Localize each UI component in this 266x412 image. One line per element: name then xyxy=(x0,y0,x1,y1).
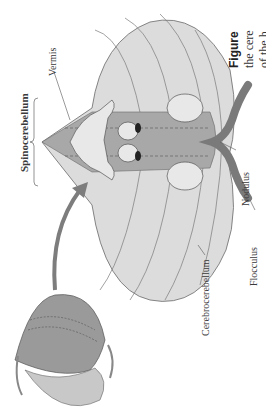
caption-figure-label: Figure xyxy=(227,31,241,68)
label-flocculus: Flocculus xyxy=(248,247,259,286)
caption-line-2: of the h xyxy=(257,31,266,68)
vermis-leader xyxy=(54,72,70,120)
label-nodulus: Nodulus xyxy=(240,172,251,206)
textbook-figure-page: Spinocerebellum Vermis Nodulus Flocculus… xyxy=(0,0,266,412)
transition-arrow xyxy=(54,190,80,290)
label-spinocerebellum: Spinocerebellum xyxy=(18,93,30,172)
brainstem-cerebellum-illustration xyxy=(15,295,113,406)
figure-caption: Figure the cere of the h xyxy=(226,30,266,68)
label-vermis: Vermis xyxy=(47,48,58,76)
spinocerebellum-bracket xyxy=(30,98,38,186)
label-cerebrocerebellum: Cerebrocerebellum xyxy=(200,259,211,336)
caption-line-1: the cere xyxy=(242,30,256,68)
